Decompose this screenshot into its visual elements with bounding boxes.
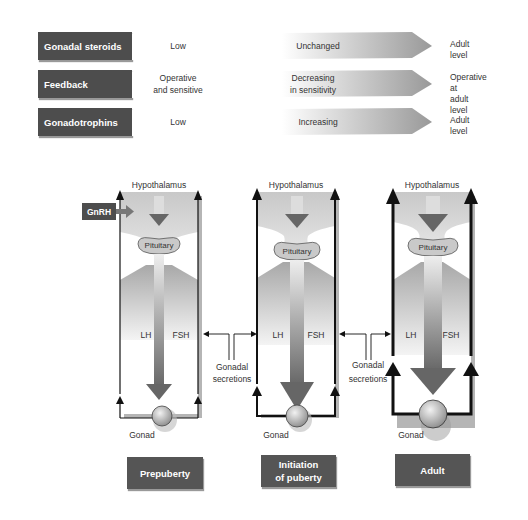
gnrh-label: GnRH: [87, 207, 111, 217]
pituitary-label-3: Pituitary: [419, 243, 448, 252]
gonad-label-1: Gonad: [129, 430, 155, 440]
pituitary-label-1: Pituitary: [145, 241, 174, 250]
secretions-label-1b: secretions: [213, 374, 252, 384]
panel-initiation: [252, 188, 340, 432]
fsh-label-3: FSH: [443, 330, 460, 340]
fsh-label-2: FSH: [308, 330, 325, 340]
hypothalamus-label-2: Hypothalamus: [269, 180, 323, 190]
gonad-label-3: Gonad: [398, 430, 424, 440]
hpg-axis-diagram: GnRH: [0, 0, 528, 520]
panel-adult: [385, 188, 479, 441]
secretions-label-2b: secretions: [349, 374, 388, 384]
stage-adult: Adult: [395, 454, 470, 486]
secretions-connector-2: [343, 334, 389, 360]
hypothalamus-label-1: Hypothalamus: [132, 180, 186, 190]
hypothalamus-label-3: Hypothalamus: [405, 180, 459, 190]
lh-label-3: LH: [406, 330, 417, 340]
lh-label-2: LH: [273, 330, 284, 340]
lh-label-1: LH: [141, 330, 152, 340]
secretions-connector-1: [207, 334, 253, 360]
stage-initiation: Initiationof puberty: [261, 455, 336, 487]
stage-prepuberty: Prepuberty: [127, 457, 203, 489]
secretions-label-2a: Gonadal: [352, 360, 384, 370]
panel-prepuberty: [116, 190, 202, 432]
gonad-label-2: Gonad: [263, 430, 289, 440]
pituitary-label-2: Pituitary: [283, 247, 312, 256]
fsh-label-1: FSH: [173, 330, 190, 340]
secretions-label-1a: Gonadal: [216, 362, 248, 372]
